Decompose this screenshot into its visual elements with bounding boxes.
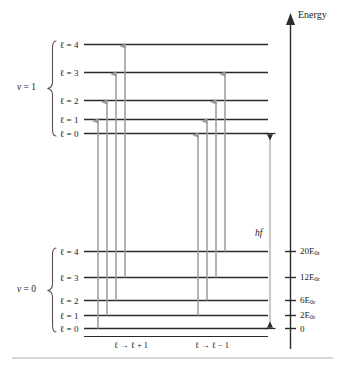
- band-v1-value: 1: [31, 82, 36, 92]
- band-v0-levels: [84, 252, 268, 329]
- energy-tick-label-6: 6E0r: [300, 296, 315, 306]
- band-v1-eq: =: [21, 82, 31, 92]
- level-label-v1-l3: ℓ = 3: [60, 68, 78, 77]
- energy-axis: [285, 13, 296, 349]
- brace-v0: [48, 248, 57, 332]
- energy-tick-2-sub: 0r: [310, 313, 315, 320]
- energy-tick-20-sub: 0r: [315, 249, 320, 256]
- brace-v1: [48, 41, 57, 136]
- level-label-v0-l3: ℓ = 3: [60, 273, 78, 282]
- level-label-v1-l2: ℓ = 2: [60, 96, 78, 105]
- energy-tick-6-main: 6E: [300, 295, 310, 305]
- energy-axis-title: Energy: [298, 10, 327, 20]
- energy-tick-12-main: 12E: [300, 272, 315, 282]
- band-v0-eq: =: [21, 284, 31, 294]
- photon-energy-label: hf: [255, 229, 262, 239]
- energy-tick-label-20: 20E0r: [300, 247, 320, 257]
- band-label-v0: v = 0: [17, 285, 36, 295]
- energy-tick-label-0: 0: [300, 324, 305, 333]
- hf-measure-arrow: [265, 134, 276, 329]
- level-label-v1-l0: ℓ = 0: [60, 129, 78, 138]
- band-v0-value: 0: [31, 284, 36, 294]
- footer-divider: [12, 357, 333, 359]
- energy-tick-6-sub: 0r: [310, 298, 315, 305]
- level-label-v1-l1: ℓ = 1: [60, 115, 78, 124]
- level-label-v0-l1: ℓ = 1: [60, 311, 78, 320]
- transition-arrows-l-minus-1: [198, 74, 225, 316]
- level-label-v0-l4: ℓ = 4: [60, 247, 78, 256]
- energy-tick-12-sub: 0r: [315, 275, 320, 282]
- transition-group-label-l-minus-1: ℓ → ℓ − 1: [195, 341, 229, 350]
- diagram-canvas: [0, 0, 345, 370]
- level-label-v1-l4: ℓ = 4: [60, 40, 78, 49]
- transition-group-label-l-plus-1: ℓ → ℓ + 1: [114, 341, 148, 350]
- level-label-v0-l2: ℓ = 2: [60, 296, 78, 305]
- energy-tick-label-12: 12E0r: [300, 273, 320, 283]
- band-label-v1: v = 1: [17, 83, 36, 93]
- energy-tick-2-main: 2E: [300, 310, 310, 320]
- energy-tick-label-2: 2E0r: [300, 311, 315, 321]
- energy-level-diagram: Energy v = 1 v = 0 ℓ = 4 ℓ = 3 ℓ = 2 ℓ =…: [0, 0, 345, 370]
- level-label-v0-l0: ℓ = 0: [60, 324, 78, 333]
- transition-arrows-l-plus-1: [98, 46, 125, 329]
- band-v1-levels: [84, 45, 268, 134]
- energy-tick-20-main: 20E: [300, 246, 315, 256]
